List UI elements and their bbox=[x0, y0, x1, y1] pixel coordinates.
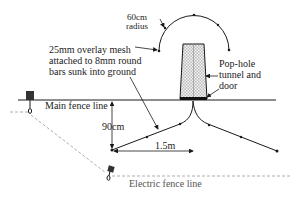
insulator-icon bbox=[28, 109, 31, 114]
fence-post-icon bbox=[26, 91, 34, 100]
electric-fence-post-icon bbox=[107, 165, 114, 172]
pop-hole-door bbox=[180, 97, 207, 100]
main-fence-label: Main fence line bbox=[45, 101, 108, 111]
radius-label-line2: radius bbox=[126, 22, 148, 31]
radius-label: 60cm radius bbox=[126, 13, 148, 31]
radius-leader bbox=[160, 19, 164, 27]
mesh-leader-bottom bbox=[130, 77, 158, 129]
mesh-label: 25mm overlay mesh attached to 8mm round … bbox=[49, 44, 141, 77]
mesh-wing-right bbox=[193, 101, 277, 151]
width-label: 1.5m bbox=[155, 141, 175, 151]
pophole-label: Pop-hole tunnel and door bbox=[219, 58, 261, 91]
pophole-leader-bottom bbox=[207, 89, 219, 97]
electric-fence-label: Electric fence line bbox=[129, 179, 202, 189]
diagram-canvas: 60cm radius 25mm overlay mesh attached t… bbox=[0, 0, 303, 202]
electric-fence-diagonal bbox=[31, 115, 106, 173]
depth-label: 90cm bbox=[102, 122, 124, 132]
